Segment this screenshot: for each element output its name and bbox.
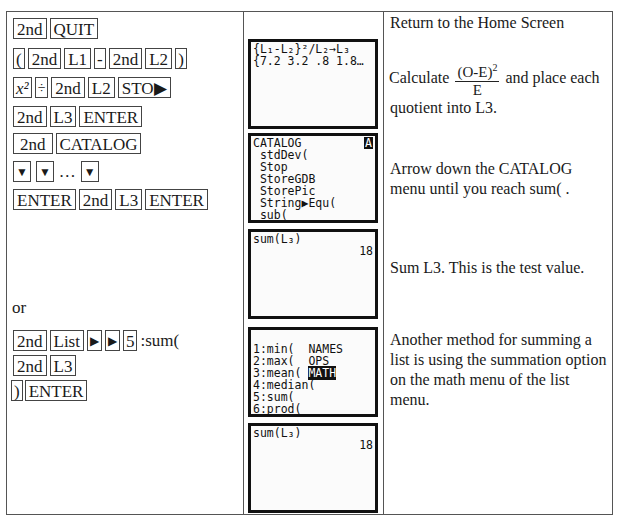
key-close-paren: ) (11, 380, 23, 401)
keystroke-row-difference: ( 2nd L1 - 2nd L2 ) (13, 48, 187, 69)
alpha-indicator-icon: A (364, 137, 373, 149)
keystroke-column: 2nd QUIT ( 2nd L1 - 2nd L2 ) x² ÷ 2nd L2… (7, 12, 243, 514)
key-open-paren: ( (13, 48, 25, 69)
key-divide: ÷ (35, 77, 49, 98)
keystroke-row-close-enter: ) ENTER (11, 380, 87, 401)
screen-expression: sum(L₃) (253, 233, 373, 245)
right-arrow-icon: ▶ (105, 330, 120, 351)
calculator-screen-catalog: CATALOG A stdDev( Stop StoreGDB StorePic… (248, 133, 378, 223)
instruction-table: 2nd QUIT ( 2nd L1 - 2nd L2 ) x² ÷ 2nd L2… (6, 11, 613, 515)
keystroke-row-l3: 2nd L3 (13, 355, 76, 376)
key-2nd: 2nd (79, 189, 113, 210)
calculator-screen-sum-result: sum(L₃) 18 (248, 229, 378, 319)
key-2nd: 2nd (13, 355, 47, 376)
key-catalog: CATALOG (56, 133, 142, 154)
catalog-item-selected: ▸sum( (253, 221, 373, 223)
calculator-screen-list-math: NAMES OPS MATH 1:min( 2:max( 3:mean( 4:m… (248, 327, 378, 417)
description-column: Return to the Home Screen Calculate(O-E)… (384, 12, 612, 514)
key-l3: L3 (115, 189, 142, 210)
key-quit: QUIT (50, 18, 99, 39)
step-arrow-down: Arrow down the CATALOG menu until you re… (390, 159, 604, 199)
screen-column: {L₁-L₂}²/L₂→L₃ {7.2 3.2 .8 1.8… CATALOG … (244, 12, 383, 514)
right-arrow-icon: ▶ (87, 330, 102, 351)
key-enter: ENTER (25, 380, 88, 401)
key-2nd: 2nd (51, 77, 85, 98)
key-l3: L3 (50, 355, 77, 376)
keystroke-row-catalog: 2nd CATALOG (13, 133, 141, 154)
step-calculate-line2: quotient into L3. (390, 98, 606, 118)
screen-line: {7.2 3.2 .8 1.8… (253, 55, 373, 67)
key-l2: L2 (145, 48, 172, 69)
step-calculate: Calculate(O-E)2Eand place each (389, 59, 606, 99)
step-return-home: Return to the Home Screen (390, 13, 606, 33)
formula-fraction: (O-E)2E (455, 59, 499, 99)
key-2nd: 2nd (28, 48, 62, 69)
keystroke-row-store-l3: 2nd L3 ENTER (13, 106, 142, 127)
key-l1: L1 (64, 48, 91, 69)
keystroke-row-sum-enter: ENTER 2nd L3 ENTER (13, 189, 208, 210)
key-close-paren: ) (175, 48, 187, 69)
key-enter: ENTER (13, 189, 76, 210)
calculator-screen-home-store: {L₁-L₂}²/L₂→L₃ {7.2 3.2 .8 1.8… (248, 39, 378, 129)
step-another-method: Another method for summing a list is usi… (390, 330, 608, 410)
key-enter: ENTER (145, 189, 208, 210)
screen-result: 18 (253, 245, 373, 257)
keystroke-row-list-math: 2nd List ▶ ▶ 5 :sum( (13, 330, 179, 351)
key-5: 5 (123, 330, 138, 351)
key-2nd: 2nd (13, 106, 47, 127)
key-2nd: 2nd (13, 18, 47, 39)
ellipsis: … (59, 162, 76, 182)
sum-label: :sum( (140, 331, 179, 351)
key-l2: L2 (88, 77, 115, 98)
key-2nd: 2nd (13, 133, 53, 154)
key-2nd: 2nd (109, 48, 143, 69)
step-sum-l3: Sum L3. This is the test value. (390, 258, 606, 278)
math-menu-item: 7↓stdDev( (253, 415, 373, 417)
down-arrow-icon: ▼ (81, 161, 99, 182)
calculator-screen-sum-result-2: sum(L₃) 18 (248, 423, 378, 513)
down-arrow-icon: ▼ (36, 161, 54, 182)
key-minus: - (94, 48, 106, 69)
key-sto: STO▶ (118, 77, 171, 98)
screen-expression: sum(L₃) (253, 427, 373, 439)
key-list: List (50, 330, 84, 351)
key-2nd: 2nd (13, 330, 47, 351)
keystroke-row-quit: 2nd QUIT (13, 18, 98, 39)
or-label: or (12, 298, 26, 318)
keystroke-row-arrows: ▼ ▼ … ▼ (13, 161, 99, 182)
key-x-squared: x² (13, 77, 32, 98)
key-enter: ENTER (79, 106, 142, 127)
screen-result: 18 (253, 439, 373, 451)
keystroke-row-square-divide: x² ÷ 2nd L2 STO▶ (13, 77, 171, 98)
down-arrow-icon: ▼ (13, 161, 31, 182)
key-l3: L3 (50, 106, 77, 127)
